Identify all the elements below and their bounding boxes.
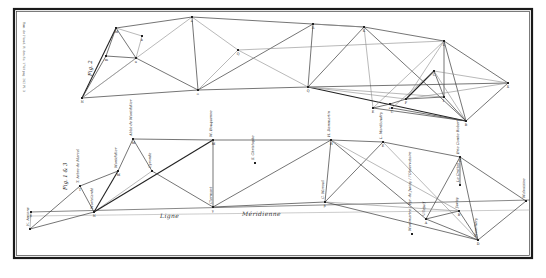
- station-letter: γ: [212, 209, 214, 213]
- margin-note: Tom. de l'Acad. R. des Sc. 1740 pag. 262…: [22, 22, 26, 92]
- station-label: Montmartre / Pyr. de Juvisy / l'Observat…: [408, 152, 412, 232]
- station-letter: C: [391, 110, 394, 114]
- triangulation-edge: [192, 17, 198, 90]
- station-label: Abbé de Montdidier: [129, 99, 133, 137]
- station-letter: N: [93, 214, 96, 218]
- station-label: Villejuif: [422, 201, 426, 216]
- station-label: M. Bouquenne: [209, 110, 213, 138]
- station-letter: C: [459, 159, 462, 163]
- triangulation-edge: [364, 27, 444, 41]
- triangulation-edge: [106, 56, 136, 58]
- station-marker: [363, 26, 365, 28]
- triangulation-edge: [392, 108, 466, 121]
- station-label: L. Montbaudry: [379, 111, 383, 140]
- station-letter: β: [324, 204, 326, 208]
- triangulation-edge: [116, 28, 142, 36]
- station-label: S. Christophe: [251, 135, 255, 160]
- station-letter: M: [212, 142, 216, 146]
- figure-1-3-caption: Fig. 1 & 3: [62, 162, 69, 191]
- triangulation-edge: [192, 17, 238, 50]
- triangulation-edge: [198, 87, 308, 90]
- station-marker: [191, 16, 193, 18]
- station-letter: M: [132, 141, 136, 145]
- station-letter: X: [507, 85, 510, 89]
- station-marker: [29, 228, 31, 230]
- station-marker: [212, 206, 214, 208]
- station-letter: R: [312, 26, 315, 30]
- station-label: Clermont: [209, 186, 213, 204]
- station-marker: [30, 211, 32, 213]
- station-marker: [411, 233, 413, 235]
- triangulation-edge: [94, 140, 213, 212]
- station-marker: [254, 162, 256, 164]
- station-marker: [324, 201, 326, 203]
- station-letter: a: [191, 19, 193, 23]
- triangulation-edge: [213, 140, 331, 207]
- station-marker: [141, 35, 143, 37]
- triangulation-edge: [136, 58, 198, 90]
- station-marker: [443, 96, 445, 98]
- triangulation-edge: [373, 108, 466, 121]
- triangulation-edge: [383, 142, 460, 157]
- triangulation-edge: [80, 171, 118, 186]
- station-label: Le Crottes: [456, 163, 460, 183]
- station-marker: [330, 139, 332, 141]
- triangulation-edge: [118, 139, 133, 171]
- station-label: Cyronde: [148, 153, 152, 168]
- station-marker: [525, 200, 527, 202]
- station-marker: [79, 185, 81, 187]
- station-letter: β: [30, 214, 32, 218]
- triangulation-edge: [434, 71, 508, 83]
- triangulation-edge: [198, 50, 238, 90]
- station-marker: [307, 86, 309, 88]
- triangulation-edge: [325, 140, 331, 202]
- triangulation-edge: [364, 27, 373, 108]
- station-marker: [197, 89, 199, 91]
- plate-frame-outer: [14, 9, 532, 258]
- station-marker: [237, 49, 239, 51]
- station-marker: [212, 139, 214, 141]
- station-marker: [151, 170, 153, 172]
- station-marker: [405, 98, 407, 100]
- triangulation-edge: [331, 140, 383, 142]
- station-marker: [389, 103, 391, 105]
- triangulation-edge: [325, 142, 383, 202]
- triangulation-edge: [308, 24, 313, 87]
- station-label: Juvisy: [455, 196, 459, 209]
- triangulation-edge: [390, 99, 406, 104]
- station-letter: G: [433, 73, 436, 77]
- triangulation-edge: [308, 83, 508, 87]
- meridian-label-ligne: Ligne: [159, 212, 179, 220]
- triangulation-edge: [116, 28, 136, 58]
- triangulation-edge: [82, 90, 198, 98]
- station-letter: E: [382, 144, 385, 148]
- station-marker: [93, 211, 95, 213]
- triangulation-plate: Tom. de l'Acad. R. des Sc. 1740 pag. 262…: [0, 0, 546, 278]
- triangulation-edge: [392, 71, 434, 108]
- station-marker: [458, 210, 460, 212]
- triangulation-edge: [152, 171, 213, 207]
- station-marker: [135, 57, 137, 59]
- plate-frame-inner: [17, 12, 530, 256]
- triangulation-edge: [238, 50, 308, 87]
- station-letter: o: [197, 92, 199, 96]
- station-marker: [81, 97, 83, 99]
- station-letter: M: [115, 30, 119, 34]
- triangulation-edge: [133, 139, 213, 140]
- station-letter: A: [424, 221, 428, 225]
- triangulation-edge: [238, 41, 444, 50]
- station-letter: B: [465, 123, 468, 127]
- triangulation-edge: [82, 56, 106, 98]
- triangulation-edge: [94, 171, 118, 212]
- triangulation-edge: [308, 27, 364, 87]
- figure-2-network: NMmukaoQRQKLGXIFEeCB: [81, 16, 510, 127]
- station-label: C. Mareuil: [321, 180, 325, 199]
- station-letter: E: [372, 110, 375, 114]
- station-letter: u: [135, 60, 138, 64]
- triangulation-edge: [426, 219, 478, 240]
- triangulation-edge: [460, 157, 526, 201]
- station-label: H. Dammartin: [327, 110, 331, 138]
- station-letter: D: [477, 242, 480, 246]
- station-marker: [382, 141, 384, 143]
- station-letter: H: [330, 142, 333, 146]
